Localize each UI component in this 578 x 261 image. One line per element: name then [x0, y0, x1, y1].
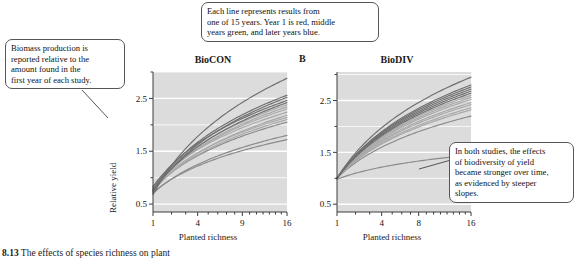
panel-letter-b: B: [299, 53, 306, 64]
callout-line: first year of each study.: [11, 75, 119, 86]
callout-line-color-note: Each line represents results from one of…: [201, 2, 379, 42]
figure-caption: 8.13 The effects of species richness on …: [2, 248, 170, 258]
callout-line: one of 15 years. Year 1 is red, middle: [207, 17, 373, 28]
x-tick-label: 8: [416, 218, 421, 228]
panel-title-biodiv: BioDIV: [327, 54, 467, 65]
callout-line: of biodiversity of yield: [455, 157, 568, 168]
plot-area-biocon: 0.51.52.514916: [127, 68, 295, 247]
callout-line: Each line represents results from: [207, 6, 373, 17]
callout-line: became stronger over time,: [455, 167, 568, 178]
y-tick-label: 0.5: [320, 199, 332, 209]
x-axis-label-biodiv: Planted richness: [317, 232, 467, 242]
x-tick-label: 16: [283, 218, 293, 228]
x-tick-label: 16: [467, 218, 477, 228]
figure-caption-text: The effects of species richness on plant: [21, 248, 170, 258]
panel-title-biocon: BioCON: [143, 54, 283, 65]
x-tick-label: 9: [240, 218, 245, 228]
callout-biomass-note: Biomass production is reported relative …: [5, 39, 125, 89]
callout-slope-note: In both studies, the effects of biodiver…: [449, 142, 574, 203]
x-axis-label-biocon: Planted richness: [133, 232, 283, 242]
plot-svg-biocon: 0.51.52.514916: [127, 68, 295, 243]
y-axis-label-biocon: Relative yield: [108, 163, 118, 213]
callout-line: Biomass production is: [11, 43, 119, 54]
x-tick-label: 4: [195, 218, 200, 228]
y-tick-label: 1.5: [136, 146, 148, 156]
callout-line: amount found in the: [11, 64, 119, 75]
figure-number: 8.13: [2, 248, 19, 258]
y-tick-label: 2.5: [320, 96, 332, 106]
callout-line: In both studies, the effects: [455, 146, 568, 157]
callout-line: reported relative to the: [11, 54, 119, 65]
y-tick-label: 0.5: [136, 199, 148, 209]
callout-line: years green, and later years blue.: [207, 27, 373, 38]
callout-line: as evidenced by steeper: [455, 178, 568, 189]
x-tick-label: 1: [335, 218, 340, 228]
y-tick-label: 1.5: [320, 148, 332, 158]
figure-8-13: Biomass production is reported relative …: [0, 0, 578, 261]
callout-line: slopes.: [455, 188, 568, 199]
callout-leader-line-right: [417, 158, 453, 172]
x-tick-label: 4: [379, 218, 384, 228]
y-tick-label: 2.5: [136, 94, 148, 104]
callout-leader-line-left: [80, 88, 124, 122]
x-tick-label: 1: [151, 218, 156, 228]
